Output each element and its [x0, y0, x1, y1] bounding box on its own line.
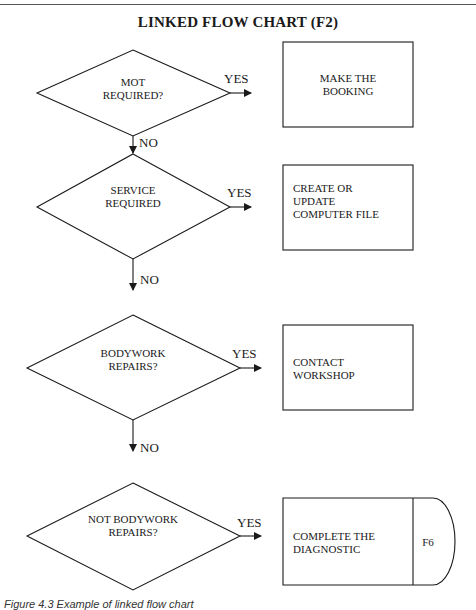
no-label-service: NO: [140, 272, 159, 288]
decision-label-bodywork: BODYWORK REPAIRS?: [83, 347, 183, 373]
no-label-bodywork: NO: [140, 440, 159, 456]
no-label-mot: NO: [139, 135, 158, 151]
decision-label-mot: MOT REQUIRED?: [83, 76, 183, 102]
yes-label-bodywork: YES: [232, 346, 257, 362]
yes-label-service: YES: [227, 185, 252, 201]
action-label-diagnostic: COMPLETE THE DIAGNOSTIC: [293, 530, 375, 556]
yes-label-mot: YES: [224, 71, 249, 87]
action-label-workshop: CONTACT WORKSHOP: [293, 356, 355, 382]
action-label-computer-file: CREATE OR UPDATE COMPUTER FILE: [293, 182, 379, 221]
connector-label-f6: F6: [413, 536, 443, 549]
decision-label-service: SERVICE REQUIRED: [83, 184, 183, 210]
decision-label-not-bodywork: NOT BODYWORK REPAIRS?: [63, 513, 203, 539]
action-label-booking: MAKE THE BOOKING: [283, 72, 413, 98]
figure-caption: Figure 4.3 Example of linked flow chart: [4, 598, 194, 610]
yes-label-not-bodywork: YES: [237, 515, 262, 531]
